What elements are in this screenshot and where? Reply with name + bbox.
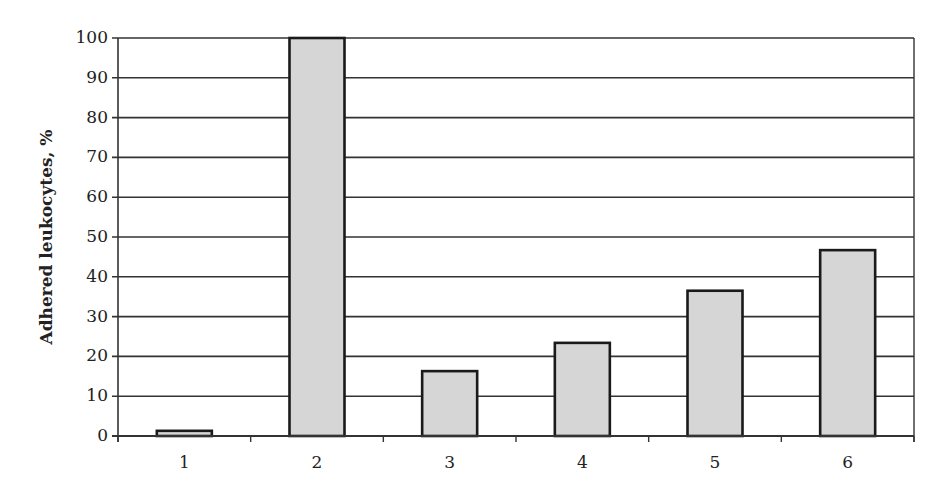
y-tick-label: 70 [0, 146, 108, 166]
bar-6 [820, 250, 875, 436]
y-tick-label: 80 [0, 107, 108, 127]
bar-chart: Adhered leukocytes, % 010203040506070809… [0, 0, 952, 499]
y-tick-label: 10 [0, 385, 108, 405]
y-tick-label: 60 [0, 186, 108, 206]
bar-4 [555, 343, 610, 436]
y-tick-label: 0 [0, 425, 108, 445]
y-tick-label: 90 [0, 67, 108, 87]
bar-5 [688, 291, 743, 436]
y-tick-label: 100 [0, 27, 108, 47]
x-tick-label: 5 [695, 452, 735, 472]
bar-2 [290, 38, 345, 436]
x-tick-label: 6 [828, 452, 868, 472]
x-tick-label: 1 [164, 452, 204, 472]
y-tick-label: 50 [0, 226, 108, 246]
y-tick-label: 30 [0, 306, 108, 326]
bar-3 [422, 371, 477, 436]
x-tick-label: 4 [562, 452, 602, 472]
y-tick-label: 40 [0, 266, 108, 286]
y-tick-label: 20 [0, 345, 108, 365]
x-tick-label: 3 [430, 452, 470, 472]
plot-area [0, 0, 952, 499]
x-tick-label: 2 [297, 452, 337, 472]
